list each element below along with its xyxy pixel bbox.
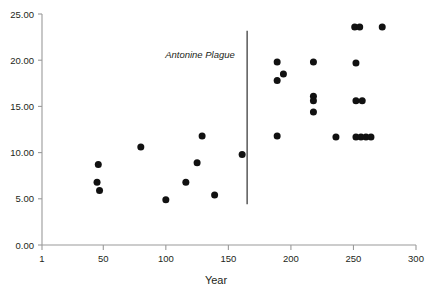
y-tick-label: 0.00 <box>16 240 35 251</box>
y-tick-label: 15.00 <box>10 101 34 112</box>
scatter-chart: 0.005.0010.0015.0020.0025.00 15010015020… <box>0 0 432 291</box>
x-tick-label: 150 <box>220 253 236 264</box>
data-point <box>379 23 386 30</box>
data-points-layer <box>94 23 386 203</box>
y-tick-label: 20.00 <box>10 55 34 66</box>
x-tick-label: 100 <box>158 253 174 264</box>
data-point <box>352 97 359 104</box>
data-point <box>359 97 366 104</box>
data-point <box>194 159 201 166</box>
y-axis: 0.005.0010.0015.0020.0025.00 <box>10 9 42 251</box>
data-point <box>356 23 363 30</box>
x-tick-label: 50 <box>98 253 109 264</box>
data-point <box>162 196 169 203</box>
data-point <box>274 132 281 139</box>
data-point <box>94 179 101 186</box>
event-annotation-label: Antonine Plague <box>164 49 235 60</box>
x-tick-label: 1 <box>39 253 44 264</box>
data-point <box>96 187 103 194</box>
data-point <box>95 161 102 168</box>
data-point <box>199 132 206 139</box>
data-point <box>239 151 246 158</box>
x-tick-label: 200 <box>283 253 299 264</box>
data-point <box>280 71 287 78</box>
chart-canvas: 0.005.0010.0015.0020.0025.00 15010015020… <box>0 0 432 291</box>
data-point <box>332 133 339 140</box>
data-point <box>367 133 374 140</box>
data-point <box>310 59 317 66</box>
data-point <box>274 77 281 84</box>
y-tick-label: 25.00 <box>10 9 34 20</box>
x-tick-label: 300 <box>408 253 424 264</box>
y-tick-label: 10.00 <box>10 147 34 158</box>
data-point <box>137 144 144 151</box>
data-point <box>310 97 317 104</box>
data-point <box>182 179 189 186</box>
data-point <box>211 192 218 199</box>
annotation-layer: Antonine Plague <box>164 31 247 205</box>
data-point <box>352 59 359 66</box>
y-tick-label: 5.00 <box>16 193 35 204</box>
data-point <box>274 59 281 66</box>
x-axis-title: Year <box>205 274 228 286</box>
x-axis: 150100150200250300 <box>39 245 424 264</box>
x-tick-label: 250 <box>346 253 362 264</box>
data-point <box>310 108 317 115</box>
